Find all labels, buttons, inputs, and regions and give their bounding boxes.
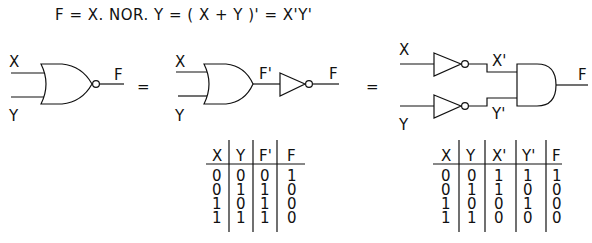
table-cell: 0	[287, 209, 297, 227]
table-cell: 1	[236, 209, 246, 227]
equals-sign-1: =	[137, 78, 150, 96]
nor-gate-figure: F = X. NOR. Y = ( X + Y )' = X'Y' X Y F …	[0, 0, 592, 243]
input-x-label: X	[399, 41, 409, 59]
not-gate-x-icon	[434, 53, 461, 76]
x-prime-label: X'	[492, 52, 506, 70]
y-prime-label: Y'	[491, 105, 505, 123]
table-row: 0 1 1 0	[212, 181, 297, 199]
table-header: X'	[492, 147, 506, 165]
table-cell: 0	[523, 209, 533, 227]
table-header: F'	[259, 147, 272, 165]
equation: F = X. NOR. Y = ( X + Y )' = X'Y'	[55, 6, 312, 24]
table-header: X	[212, 147, 222, 165]
table-cell: 1	[260, 209, 270, 227]
inversion-bubble-icon	[306, 81, 313, 88]
input-x-label: X	[175, 53, 185, 71]
table-header: X	[441, 147, 451, 165]
diagram-not-not-and: X Y X' Y' F	[398, 41, 588, 134]
output-f-label: F	[114, 66, 123, 84]
table-header: Y	[465, 147, 476, 165]
input-y-label: Y	[174, 107, 185, 125]
or-gate-icon	[204, 64, 253, 104]
table-header: Y'	[521, 147, 535, 165]
input-x-label: X	[9, 53, 19, 71]
nor-gate-icon	[41, 64, 92, 104]
diagram-or-not: X Y F' F	[174, 53, 339, 125]
table-row: 1 0 1 0	[212, 195, 297, 213]
table-header: F	[552, 147, 561, 165]
table-cell: 1	[441, 209, 451, 227]
equals-sign-2: =	[366, 78, 379, 96]
intermediate-f-prime-label: F'	[259, 65, 272, 83]
table-cell: 0	[494, 209, 504, 227]
table-header: F	[287, 147, 296, 165]
inversion-bubble-icon	[93, 81, 100, 88]
truth-table-1: X Y F' F 0 0 0 1 0 1 1 0 1 0 1 0 1 1 1 0	[206, 140, 305, 232]
truth-table-2: X Y X' Y' F 0 0 1 1 1 0 1 1 0 0 1 0 0 1 …	[433, 140, 562, 232]
input-y-label: Y	[398, 116, 409, 134]
table-cell: 0	[552, 209, 562, 227]
not-gate-y-icon	[434, 95, 461, 118]
table-cell: 1	[467, 209, 477, 227]
table-cell: 1	[212, 209, 222, 227]
inversion-bubble-icon	[462, 103, 469, 110]
output-f-label: F	[329, 65, 338, 83]
and-gate-icon	[517, 64, 556, 106]
diagram-nor-gate: X Y F	[8, 53, 124, 125]
table-row: 0 0 0 1	[212, 167, 297, 185]
output-f-label: F	[578, 66, 587, 84]
table-header: Y	[235, 147, 246, 165]
not-gate-icon	[280, 73, 305, 96]
input-y-label: Y	[8, 107, 19, 125]
table-row: 1 1 1 0	[212, 209, 297, 227]
inversion-bubble-icon	[462, 61, 469, 68]
